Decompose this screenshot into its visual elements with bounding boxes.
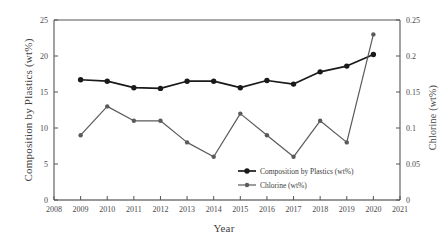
x-tick-label: 2021 [392, 205, 408, 214]
data-point [344, 63, 349, 68]
y-axis-left-title: Composition by Plastics (wt%) [22, 30, 34, 190]
series-line-2 [81, 34, 374, 156]
y-right-tick-label: 0.1 [406, 124, 416, 133]
data-series-layer [78, 32, 376, 159]
x-tick-label: 2015 [232, 205, 248, 214]
data-point [78, 77, 83, 82]
data-point [264, 78, 269, 83]
legend-marker [244, 168, 249, 173]
y-left-tick-label: 0 [44, 196, 48, 205]
chart-figure: 0510152025 00.050.10.150.20.25 200820092… [0, 0, 448, 248]
x-tick-label: 2014 [206, 205, 222, 214]
data-point [238, 111, 242, 115]
y-right-tick-label: 0.25 [406, 16, 420, 25]
chart-plot-area: 0510152025 00.050.10.150.20.25 200820092… [0, 0, 448, 248]
y-right-tick-label: 0.05 [406, 160, 420, 169]
x-tick-label: 2010 [99, 205, 115, 214]
y-left-tick-label: 10 [40, 124, 48, 133]
x-tick-label: 2009 [73, 205, 89, 214]
data-point [158, 86, 163, 91]
x-axis-title: Year [0, 222, 448, 234]
x-tick-label: 2019 [339, 205, 355, 214]
data-point [291, 155, 295, 159]
data-point [185, 140, 189, 144]
data-point [211, 79, 216, 84]
data-point [371, 32, 375, 36]
y-left-tick-label: 5 [44, 160, 48, 169]
x-tick-label: 2018 [312, 205, 328, 214]
x-tick-label: 2008 [46, 205, 62, 214]
x-tick-label: 2011 [126, 205, 142, 214]
y-axis-right-title: Chlorine (wt%) [427, 38, 438, 198]
data-point [158, 119, 162, 123]
y-left-tick-label: 15 [40, 88, 48, 97]
y-axis-left-ticks: 0510152025 [40, 16, 58, 205]
data-point [105, 104, 109, 108]
x-tick-label: 2017 [286, 205, 302, 214]
data-point [132, 119, 136, 123]
x-axis-ticks: 2008200920102011201220132014201520162017… [46, 196, 408, 214]
data-point [265, 133, 269, 137]
y-left-tick-label: 25 [40, 16, 48, 25]
y-right-tick-label: 0 [406, 196, 410, 205]
data-point [291, 81, 296, 86]
data-point [238, 85, 243, 90]
x-tick-label: 2016 [259, 205, 275, 214]
x-tick-label: 2012 [152, 205, 168, 214]
data-point [345, 140, 349, 144]
data-point [317, 69, 322, 74]
y-right-tick-label: 0.2 [406, 52, 416, 61]
legend-marker [245, 183, 249, 187]
y-right-tick-label: 0.15 [406, 88, 420, 97]
data-point [371, 52, 376, 57]
x-tick-label: 2020 [365, 205, 381, 214]
legend-label: Chlorine (wt%) [260, 181, 307, 190]
series-line-1 [81, 55, 374, 89]
data-point [131, 85, 136, 90]
data-point [184, 79, 189, 84]
x-tick-label: 2013 [179, 205, 195, 214]
data-point [318, 119, 322, 123]
data-point [211, 155, 215, 159]
y-left-tick-label: 20 [40, 52, 48, 61]
legend-label: Composition by Plastics (wt%) [260, 167, 354, 176]
data-point [105, 79, 110, 84]
chart-legend: Composition by Plastics (wt%)Chlorine (w… [238, 167, 354, 190]
data-point [78, 133, 82, 137]
